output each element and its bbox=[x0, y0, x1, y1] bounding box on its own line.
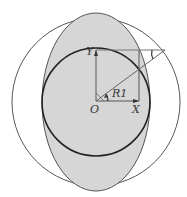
angle-arc-far-icon bbox=[152, 50, 153, 59]
diagram: Y R1 O X bbox=[0, 0, 187, 197]
diagram-canvas bbox=[0, 0, 187, 197]
x-axis-label: X bbox=[132, 104, 140, 115]
y-axis-label: Y bbox=[86, 46, 93, 57]
angle-label-r1: R1 bbox=[112, 88, 127, 99]
origin-label: O bbox=[90, 104, 99, 115]
